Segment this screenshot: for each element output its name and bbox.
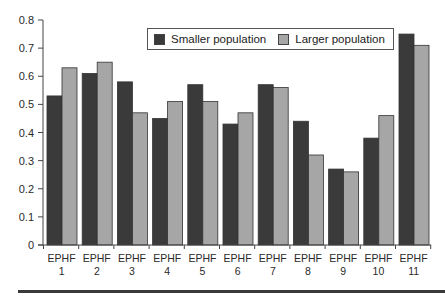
bar-smaller-population (153, 118, 168, 245)
x-category-label: EPHF (259, 252, 287, 264)
x-category-label: 5 (199, 265, 205, 277)
bar-larger-population (203, 102, 218, 245)
bar-smaller-population (293, 121, 308, 245)
bar-smaller-population (82, 73, 97, 245)
bar-groups (47, 34, 429, 245)
bar-smaller-population (364, 138, 379, 245)
x-category-label: 4 (164, 265, 170, 277)
bar-larger-population (132, 113, 147, 245)
bar-larger-population (97, 62, 112, 245)
bar-larger-population (414, 45, 429, 245)
y-tick-label: 0.8 (19, 14, 34, 26)
legend-swatch-larger (278, 34, 289, 45)
bar-group (293, 121, 323, 245)
x-category-label: EPHF (153, 252, 181, 264)
x-category-label: EPHF (364, 252, 392, 264)
legend-item-smaller: Smaller population (154, 33, 266, 45)
x-category-label: EPHF (48, 252, 76, 264)
y-tick-label: 0 (28, 239, 34, 251)
bar-larger-population (238, 113, 253, 245)
bar-larger-population (62, 68, 77, 245)
bar-group (188, 85, 218, 245)
x-category-label: 3 (129, 265, 135, 277)
bottom-rule (18, 290, 445, 293)
legend-label-larger: Larger population (295, 33, 385, 45)
x-category-label: 8 (305, 265, 311, 277)
y-tick-label: 0.3 (19, 155, 34, 167)
bar-group (117, 82, 147, 245)
x-category-label: EPHF (188, 252, 216, 264)
x-category-label: EPHF (224, 252, 252, 264)
bar-group (258, 85, 288, 245)
bar-larger-population (344, 172, 359, 245)
bar-smaller-population (117, 82, 132, 245)
x-category-label: EPHF (118, 252, 146, 264)
x-category-label: 10 (373, 265, 385, 277)
bar-larger-population (168, 102, 183, 245)
x-axis: EPHF1EPHF2EPHF3EPHF4EPHF5EPHF6EPHF7EPHF8… (38, 245, 431, 277)
bar-larger-population (273, 88, 288, 246)
x-category-label: 7 (270, 265, 276, 277)
bar-smaller-population (47, 96, 62, 245)
legend: Smaller population Larger population (147, 28, 394, 50)
x-category-label: 6 (235, 265, 241, 277)
bar-larger-population (308, 155, 323, 245)
x-category-label: 2 (94, 265, 100, 277)
y-tick-label: 0.2 (19, 183, 34, 195)
bar-group (364, 116, 394, 245)
legend-item-larger: Larger population (278, 33, 385, 45)
x-category-label: EPHF (83, 252, 111, 264)
x-category-label: 11 (408, 265, 419, 277)
y-tick-label: 0.5 (19, 98, 34, 110)
bar-group (82, 62, 112, 245)
bar-group (47, 68, 77, 245)
legend-label-smaller: Smaller population (171, 33, 266, 45)
bar-group (399, 34, 429, 245)
bar-smaller-population (188, 85, 203, 245)
x-category-label: 9 (340, 265, 346, 277)
bar-smaller-population (223, 124, 238, 245)
bar-group (329, 169, 359, 245)
x-category-label: 1 (59, 265, 65, 277)
y-tick-label: 0.1 (19, 211, 34, 223)
x-category-label: EPHF (400, 252, 428, 264)
bar-smaller-population (329, 169, 344, 245)
bar-group (153, 102, 183, 245)
bar-smaller-population (258, 85, 273, 245)
legend-swatch-smaller (154, 34, 165, 45)
y-axis: 00.10.20.30.40.50.60.70.8 (19, 14, 43, 251)
bar-larger-population (379, 116, 394, 245)
y-tick-label: 0.6 (19, 70, 34, 82)
bar-group (223, 113, 253, 245)
y-tick-label: 0.7 (19, 42, 34, 54)
y-tick-label: 0.4 (19, 127, 34, 139)
x-category-label: EPHF (329, 252, 357, 264)
x-category-label: EPHF (294, 252, 322, 264)
bar-smaller-population (399, 34, 414, 245)
